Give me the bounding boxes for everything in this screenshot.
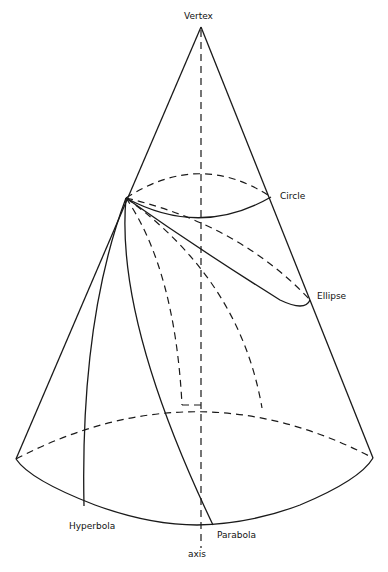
cone-left-edge xyxy=(16,27,201,459)
ellipse-label: Ellipse xyxy=(317,292,346,301)
base-front-arc xyxy=(16,458,373,525)
conic-sections-figure: Vertex Circle Ellipse Hyperbola Parabola… xyxy=(0,0,388,572)
cone-diagram xyxy=(0,0,388,572)
base-back-arc xyxy=(16,412,373,459)
hyperbola-label: Hyperbola xyxy=(69,522,115,531)
axis-label: axis xyxy=(188,550,206,559)
circle-label: Circle xyxy=(280,192,305,201)
inner-dashed-line-left xyxy=(126,198,182,405)
parabola-label: Parabola xyxy=(217,531,256,540)
circle-back-arc xyxy=(126,174,271,198)
ellipse-back-arc xyxy=(126,198,310,300)
parabola-curve xyxy=(125,198,213,525)
cone-right-edge xyxy=(201,27,373,458)
vertex-label: Vertex xyxy=(184,12,213,21)
inner-dashed-line-right xyxy=(126,198,262,408)
hyperbola-curve xyxy=(84,198,126,506)
